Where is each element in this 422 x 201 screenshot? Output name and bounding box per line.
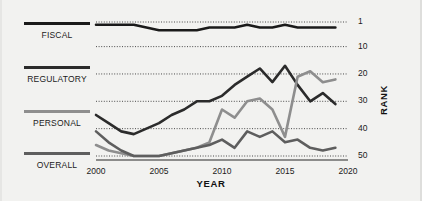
y-tick-label-30: 30 [358,95,367,105]
legend-label-regulatory: REGULATORY [18,74,96,84]
legend-swatch-overall [24,152,90,155]
x-tick-label-2015: 2015 [276,166,295,176]
y-tick-label-10: 10 [358,41,367,51]
x-tick-label-2000: 2000 [87,166,106,176]
x-tick-label-2010: 2010 [213,166,232,176]
legend-item-fiscal[interactable]: FISCAL [18,22,96,40]
legend-swatch-personal [24,110,90,113]
series-group [96,25,335,156]
legend-swatch-regulatory [24,66,90,69]
chart-legend: FISCALREGULATORYPERSONALOVERALL [18,14,96,164]
x-tick-label-2005: 2005 [150,166,169,176]
figure-left-border [0,0,2,201]
legend-item-regulatory[interactable]: REGULATORY [18,66,96,84]
plot-svg [96,14,348,160]
x-tick-label-2020: 2020 [339,166,358,176]
legend-label-personal: PERSONAL [18,118,96,128]
gridlines-group [96,22,348,156]
y-tick-label-1: 1 [358,16,363,26]
legend-item-personal[interactable]: PERSONAL [18,110,96,128]
legend-label-overall: OVERALL [18,160,96,170]
y-tick-label-20: 20 [358,68,367,78]
y-tick-label-40: 40 [358,123,367,133]
plot-area [96,14,348,160]
y-tick-label-50: 50 [358,150,367,160]
chart-figure: FISCALREGULATORYPERSONALOVERALL 11020304… [0,0,422,201]
legend-swatch-fiscal [24,22,90,25]
y-axis-label: RANK [378,85,389,115]
legend-item-overall[interactable]: OVERALL [18,152,96,170]
legend-label-fiscal: FISCAL [18,30,96,40]
x-axis-label: YEAR [0,178,422,189]
series-line-overall [96,131,335,156]
series-line-fiscal [96,25,335,30]
